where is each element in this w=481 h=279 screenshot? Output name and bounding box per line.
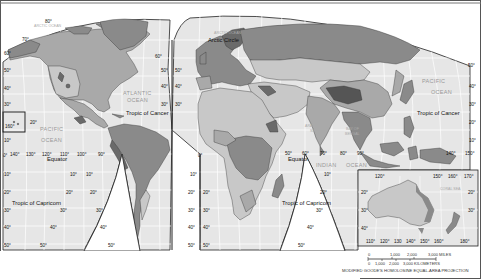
tropic-capricorn-west-label: Tropic of Capricorn — [12, 200, 61, 206]
lat-40-label-mid-l: 40° — [161, 84, 168, 89]
bay-of-bengal-label-2: BENGAL — [345, 132, 360, 136]
scale-miles-2000: 2,000 — [407, 252, 418, 257]
inset-lon-b-160: 160° — [434, 239, 444, 244]
lon-130-label-w: 130° — [26, 152, 36, 157]
projection-label: MODIFIED GOODE'S HOMOLOSINE EQUAL-AREA P… — [342, 268, 468, 273]
inset-lat-40: 40° — [361, 226, 368, 231]
atlantic-label-2: OCEAN — [127, 97, 148, 103]
inset-lat-20-e: 20° — [468, 190, 475, 195]
lat-s20-label-c1: 20° — [66, 190, 73, 195]
lat-30-label-mid-r: 30° — [175, 102, 182, 107]
lon-100-label-w: 100° — [77, 152, 87, 157]
lat-10-label-e: 10° — [469, 138, 476, 143]
inset-lon-b-140: 140° — [406, 239, 416, 244]
lat-70-label: 70° — [22, 37, 29, 42]
lat-20-label-w: 20° — [30, 120, 37, 125]
arctic-ocean-label-west: ARCTIC OCEAN — [34, 24, 62, 28]
lon-50-label: 50° — [285, 151, 292, 156]
indian-label-1: INDIAN — [316, 162, 336, 168]
lat-s20-label-w: 20° — [4, 190, 11, 195]
inset-lon-b-130: 130 — [394, 239, 402, 244]
atlantic-label-1: ATLANTIC — [123, 90, 152, 96]
lat-20-label-e: 20° — [469, 120, 476, 125]
lon-140-label-w: 140° — [10, 152, 20, 157]
lon-140-label-e: 140° — [446, 151, 456, 156]
tropic-capricorn-east-label: Tropic of Capricorn — [282, 200, 331, 206]
lat-50-label-mid-r: 50° — [175, 68, 182, 73]
lon-110-label-w: 110° — [60, 152, 69, 157]
lat-s30-label-e: 30° — [316, 208, 323, 213]
tropic-cancer-pacific-label: Tropic of Cancer — [417, 110, 460, 116]
lat-s40-label-e: 40° — [307, 225, 314, 230]
lat-s30-label-mid-l: 30° — [188, 208, 195, 213]
lon-70-label: 70° — [320, 151, 327, 156]
lat-s10-label-c2: 10° — [86, 172, 93, 177]
inset-lat-30-e: 30° — [468, 208, 475, 213]
lat-s10-label-c1: 10° — [70, 172, 77, 177]
lat-s40-label-w: 40° — [4, 225, 11, 230]
scale-km-2000: 2,000 — [389, 261, 400, 266]
lon-80-label: 80° — [340, 151, 347, 156]
lat-s50-label-e: 50° — [298, 243, 305, 248]
lat-s50-label-c1: 50° — [40, 243, 47, 248]
tropic-cancer-atlantic-label: Tropic of Cancer — [126, 110, 169, 116]
equator-east-label: Equator — [288, 156, 308, 162]
bay-of-bengal-label-1: BAY OF — [346, 127, 360, 131]
arctic-ocean-label-east: ARCTIC OCEAN — [214, 31, 242, 35]
lon-120-label-w: 120° — [42, 152, 52, 157]
lat-50-label-w: 50° — [4, 68, 11, 73]
inset-lat-20-w: 20° — [361, 190, 368, 195]
lon-150-label-e: 150° — [465, 151, 475, 156]
lat-10-label-w: 10° — [4, 138, 11, 143]
arabian-sea-label-2: SEA — [310, 129, 318, 133]
lat-80-label: 80° — [45, 19, 52, 24]
inset-lon-b-150: 150° — [420, 239, 430, 244]
lat-s40-label-mid-l: 40° — [188, 225, 195, 230]
pacific-west-label-1: PACIFIC — [40, 126, 63, 132]
lat-s30-label-w: 30° — [4, 208, 11, 213]
inset-lat-30-w: 30° — [361, 208, 368, 213]
lat-s10-label-e: 10° — [324, 172, 331, 177]
pacific-west-label-2: OCEAN — [41, 137, 62, 143]
lat-s40-label-c2: 40° — [100, 225, 107, 230]
inset-lon-160: 160° — [448, 174, 458, 179]
pacific-east-label-2: OCEAN — [431, 89, 452, 95]
scale-km-1000: 1,000 — [375, 261, 386, 266]
lat-s20-label-mid-l: 20° — [188, 190, 195, 195]
australia-inset: 120° 150° 160° 170° CORAL SEA 20° 20° 30… — [358, 170, 478, 246]
lat-s40-label-c1: 40° — [50, 225, 57, 230]
lat-s40-label-mid-r: 40° — [203, 225, 210, 230]
lat-30-label-e: 30° — [469, 102, 476, 107]
lat-s10-label-mid: 10° — [190, 172, 197, 177]
inset-lon-b-110: 110° — [366, 239, 375, 244]
lat-30-label-w: 30° — [4, 102, 11, 107]
lat-s50-label-mid-l: 50° — [188, 243, 195, 248]
lat-s50-label-c2: 50° — [108, 243, 115, 248]
indian-label-2: OCEAN — [346, 162, 367, 168]
inset-lon-150: 150° — [433, 174, 443, 179]
coral-sea-label: CORAL SEA — [440, 187, 461, 191]
lat-s20-label-c2: 20° — [90, 190, 97, 195]
scale-miles-3000: 3,000 MILES — [428, 252, 451, 257]
lat-s50-label-mid-r: 50° — [203, 243, 210, 248]
lat-40-label-w: 40° — [4, 86, 11, 91]
scale-km-3000: 3,000 KILOMETERS — [403, 261, 440, 266]
inset-lon-b-180: 180° — [460, 239, 470, 244]
lat-60-label-mid: 60° — [155, 54, 162, 59]
lat-s30-label-mid-r: 30° — [203, 208, 210, 213]
lat-40-label-mid-r: 40° — [175, 84, 182, 89]
inset-lon-170: 170° — [464, 174, 474, 179]
lon-90-label-e: 90° — [357, 151, 364, 156]
lat-s10-label-w: 10° — [4, 172, 11, 177]
goode-homolosine-map: 120° 150° 160° 170° CORAL SEA 20° 20° 30… — [0, 0, 481, 279]
scale-miles-1000: 1,000 — [390, 252, 401, 257]
lat-30-label-mid-l: 30° — [161, 102, 168, 107]
lat-50-label-mid-l: 50° — [161, 68, 168, 73]
lat-s20-label-mid-r: 20° — [203, 190, 210, 195]
lat-0-label-mid: 0° — [198, 153, 203, 158]
arctic-circle-label: Arctic Circle — [208, 37, 239, 43]
lat-0-label-w: 0° — [3, 153, 8, 158]
inset-lon-120: 120° — [375, 174, 385, 179]
lat-s30-label-c1: 30° — [60, 208, 67, 213]
lat-s30-label-c2: 30° — [96, 208, 103, 213]
